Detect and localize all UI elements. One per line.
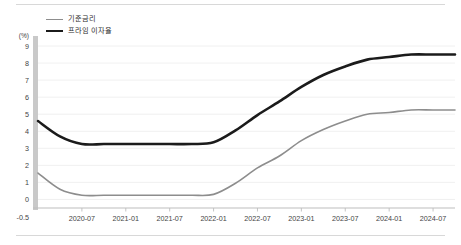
y-tick-label-5: 4 (25, 127, 29, 136)
y-tick-label-3: 2 (25, 161, 29, 170)
x-tick-label-8: 2024-07 (420, 214, 446, 223)
legend-line-swatch-base-rate (46, 19, 63, 20)
x-tick-label-7: 2024-01 (376, 214, 402, 223)
y-tick-label-8: 7 (25, 76, 29, 85)
bottom-divider (16, 235, 445, 236)
legend-line-swatch-prime-rate (46, 30, 63, 32)
chart-page: -0.50123456789(%)2020-072021-012021-0720… (0, 0, 461, 245)
x-tick-label-6: 2023-07 (332, 214, 358, 223)
x-tick-label-5: 2023-01 (288, 214, 314, 223)
y-tick-label-10: 9 (25, 42, 29, 51)
x-tick-label-3: 2022-01 (200, 214, 226, 223)
legend-item-base-rate[interactable]: 기준금리 (46, 14, 112, 24)
y-tick-label-0: -0.5 (17, 213, 29, 222)
y-tick-label-7: 6 (25, 93, 29, 102)
y-axis-band (33, 36, 38, 210)
top-divider (16, 4, 445, 5)
y-tick-label-6: 5 (25, 110, 29, 119)
y-tick-label-9: 8 (25, 59, 29, 68)
legend-label-base-rate: 기준금리 (68, 14, 96, 24)
legend-item-prime-rate[interactable]: 프라임 이자율 (46, 26, 112, 36)
chart-legend: 기준금리 프라임 이자율 (46, 14, 112, 36)
x-tick-label-4: 2022-07 (244, 214, 270, 223)
y-tick-label-4: 3 (25, 144, 29, 153)
legend-label-prime-rate: 프라임 이자율 (68, 26, 112, 36)
y-tick-label-1: 0 (25, 195, 29, 204)
y-tick-label-2: 1 (25, 178, 29, 187)
x-tick-label-0: 2020-07 (69, 214, 95, 223)
line-chart: -0.50123456789(%)2020-072021-012021-0720… (0, 8, 461, 230)
y-axis-unit-label: (%) (19, 32, 29, 40)
x-tick-label-2: 2021-07 (156, 214, 182, 223)
x-tick-label-1: 2021-01 (113, 214, 139, 223)
